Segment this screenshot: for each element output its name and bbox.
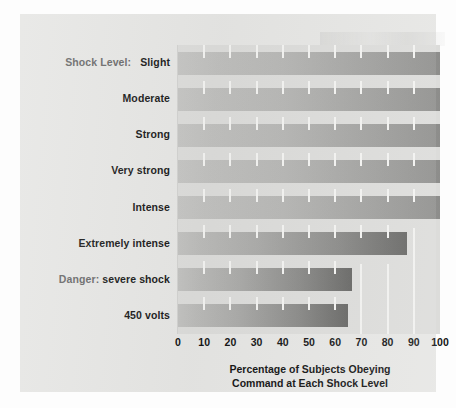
- gridline-80: [387, 264, 389, 334]
- x-tick-label-30: 30: [251, 336, 263, 348]
- category-label-strong: Strong: [30, 128, 170, 140]
- x-tick-label-50: 50: [303, 336, 315, 348]
- bar-row: [178, 88, 440, 111]
- x-tick-label-40: 40: [277, 336, 289, 348]
- category-label-slight: Shock Level: Slight: [30, 56, 170, 68]
- x-axis-title-line-2: Command at Each Shock Level: [170, 376, 450, 390]
- category-label-very-strong: Very strong: [30, 164, 170, 176]
- category-label-text: severe shock: [102, 273, 170, 285]
- category-label-text: Slight: [140, 56, 170, 68]
- bar-row: [178, 52, 440, 75]
- x-axis-title: Percentage of Subjects Obeying Command a…: [170, 362, 450, 390]
- category-label-prefix: Shock Level:: [65, 56, 140, 68]
- category-label-text: Intense: [133, 201, 170, 213]
- scan-artifact: [320, 32, 445, 46]
- x-tick-label-80: 80: [382, 336, 394, 348]
- bar-slight: [178, 52, 440, 75]
- bar-row: [178, 232, 440, 255]
- category-label-extremely-intense: Extremely intense: [30, 237, 170, 249]
- bar-danger-severe-shock: [178, 268, 352, 291]
- category-label-intense: Intense: [30, 201, 170, 213]
- bar-row: [178, 304, 440, 327]
- bar-strong: [178, 124, 440, 147]
- x-axis-title-line-1: Percentage of Subjects Obeying: [170, 362, 450, 376]
- bar-very-strong: [178, 160, 440, 183]
- x-tick-label-60: 60: [329, 336, 341, 348]
- x-tick-label-0: 0: [175, 336, 181, 348]
- category-label-450-volts: 450 volts: [30, 309, 170, 321]
- category-label-text: Extremely intense: [78, 237, 170, 249]
- bar-moderate: [178, 88, 440, 111]
- category-label-text: Moderate: [123, 92, 170, 104]
- x-tick-label-90: 90: [408, 336, 420, 348]
- category-label-text: Very strong: [111, 164, 170, 176]
- bar-extremely-intense: [178, 232, 407, 255]
- category-label-moderate: Moderate: [30, 92, 170, 104]
- bar-intense: [178, 196, 440, 219]
- x-tick-label-70: 70: [356, 336, 368, 348]
- bar-row: [178, 196, 440, 219]
- category-label-prefix: Danger:: [59, 273, 102, 285]
- x-tick-label-100: 100: [431, 336, 449, 348]
- bar-450-volts: [178, 304, 348, 327]
- gridline-90: [413, 228, 415, 334]
- chart-panel: Shock Level: SlightModerateStrongVery st…: [20, 14, 436, 392]
- x-tick-label-20: 20: [225, 336, 237, 348]
- category-label-text: Strong: [136, 128, 170, 140]
- plot-area: [178, 45, 440, 334]
- bar-row: [178, 124, 440, 147]
- category-label-column: Shock Level: SlightModerateStrongVery st…: [28, 45, 170, 334]
- x-axis-ticks: 0102030405060708090100: [178, 336, 440, 354]
- gridline-70: [360, 264, 362, 334]
- bar-row: [178, 268, 440, 291]
- category-label-text: 450 volts: [124, 309, 170, 321]
- bar-row: [178, 160, 440, 183]
- chart-figure: Shock Level: SlightModerateStrongVery st…: [0, 0, 456, 408]
- x-tick-label-10: 10: [198, 336, 210, 348]
- category-label-severe-shock: Danger: severe shock: [30, 273, 170, 285]
